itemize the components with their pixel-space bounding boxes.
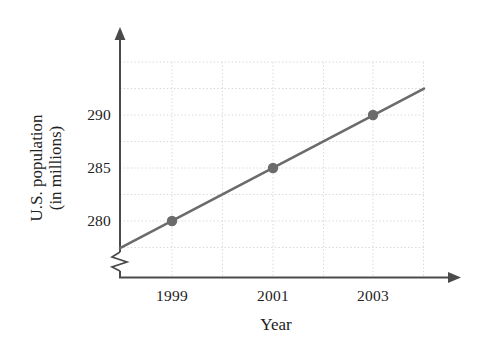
y-axis-title-line2: (in millions) [46, 114, 65, 221]
y-tick-label-285: 285 [66, 159, 111, 177]
line-chart-figure: 290 285 280 1999 2001 2003 Year U.S. pop… [0, 0, 485, 359]
axis-break-zigzag-icon [112, 252, 127, 271]
data-point-2001[interactable] [268, 163, 278, 173]
x-axis-title: Year [260, 315, 291, 335]
data-point-1999[interactable] [167, 216, 177, 226]
y-tick-label-280: 280 [66, 212, 111, 230]
y-axis-title: U.S. population (in millions) [27, 114, 65, 221]
chart-plot-svg [0, 0, 485, 359]
horizontal-gridlines [120, 62, 424, 248]
arrow-up-icon [115, 27, 126, 40]
vertical-gridlines [172, 62, 424, 276]
y-tick-label-290: 290 [66, 106, 111, 124]
x-tick-label-1999: 1999 [156, 287, 188, 305]
data-point-2003[interactable] [368, 110, 378, 120]
arrow-right-icon [448, 272, 461, 283]
y-axis-title-line1: U.S. population [27, 114, 46, 221]
x-tick-label-2001: 2001 [257, 287, 289, 305]
screenshot-canvas: 290 285 280 1999 2001 2003 Year U.S. pop… [0, 0, 485, 359]
x-tick-label-2003: 2003 [357, 287, 389, 305]
